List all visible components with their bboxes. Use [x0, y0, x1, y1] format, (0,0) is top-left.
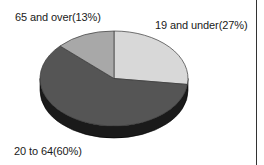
pie-slice-19-and-under	[114, 31, 188, 84]
label-19-and-under: 19 and under(27%)	[155, 19, 247, 32]
pie-chart: 65 and over(13%) 19 and under(27%) 20 to…	[0, 0, 264, 165]
label-65-and-over: 65 and over(13%)	[15, 11, 101, 24]
label-20-to-64: 20 to 64(60%)	[14, 145, 82, 158]
frame-border-line	[256, 0, 257, 165]
